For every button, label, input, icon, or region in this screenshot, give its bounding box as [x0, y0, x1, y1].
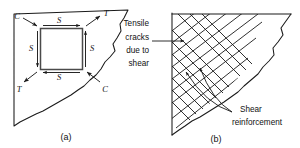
shear-reinforcement-note: Shear reinforcement — [232, 105, 283, 127]
caption-panel-b: (b) — [211, 134, 222, 144]
label-compression-bottom-right: C — [102, 84, 108, 94]
shear-reinforcement-note-line2: reinforcement — [232, 118, 283, 127]
panel-b: Tensile cracks due to shear Shear reinfo… — [124, 12, 292, 144]
tensile-cracks-note-line1: Tensile — [124, 19, 150, 28]
stress-element-square — [41, 29, 83, 70]
label-tension-top-right: T — [104, 8, 110, 18]
caption-panel-a: (a) — [61, 132, 72, 142]
label-shear-left: S — [29, 43, 34, 53]
tensile-cracks-note-line3: due to — [126, 46, 149, 55]
tension-arrow-top-right — [86, 16, 100, 26]
compression-arrow-top-left — [23, 18, 37, 26]
tension-arrow-bottom-left — [24, 72, 37, 82]
label-tension-bottom-left: T — [17, 84, 23, 94]
tensile-cracks-note-line4: shear — [129, 59, 150, 68]
shear-reinforcement-note-line1: Shear — [240, 105, 262, 114]
figure-canvas: S S S S C T T C (a) — [0, 0, 300, 148]
label-shear-bottom: S — [57, 72, 62, 82]
tensile-cracks-note-line2: cracks — [125, 33, 149, 42]
label-shear-right: S — [90, 43, 95, 53]
figure-shear-cracking: S S S S C T T C (a) — [0, 0, 300, 148]
label-shear-top: S — [57, 15, 62, 25]
panel-a-outline — [14, 10, 128, 126]
shear-reinforcement-leader-1 — [186, 72, 232, 112]
label-compression-top-left: C — [14, 11, 20, 21]
panel-a: S S S S C T T C (a) — [14, 8, 128, 142]
tensile-cracks-note: Tensile cracks due to shear — [124, 19, 150, 68]
